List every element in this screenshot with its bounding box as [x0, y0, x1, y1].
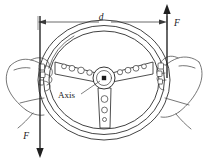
- spoke-hole: [69, 65, 75, 71]
- spoke-hole: [62, 64, 67, 69]
- force-up-label: F: [173, 18, 180, 28]
- diameter-label: d: [99, 12, 104, 22]
- right-grip-mark: [158, 63, 164, 69]
- right-hand-knuckle: [179, 66, 195, 68]
- wheel-hub: [93, 67, 115, 89]
- spoke-hole: [78, 67, 85, 74]
- right-hand-crease: [165, 98, 189, 105]
- left-hand-knuckle: [14, 68, 30, 70]
- right-grip-mark: [157, 71, 162, 77]
- left-hand-forearm: [18, 113, 33, 128]
- spoke-hole: [117, 70, 122, 75]
- spoke-hole: [102, 107, 108, 113]
- spoke-hole: [101, 96, 108, 103]
- right-hand-back: [166, 57, 199, 65]
- figure-container: Axis: [0, 0, 209, 165]
- spoke-hole: [125, 67, 131, 73]
- spoke-hole: [142, 64, 147, 69]
- force-down-arrowhead: [36, 148, 43, 158]
- dim-arrowhead-left: [38, 19, 46, 24]
- dim-arrowhead-right: [159, 19, 167, 24]
- axis-label: Axis: [58, 90, 76, 100]
- left-hand-outline: [6, 66, 26, 110]
- left-hand-back: [10, 59, 43, 66]
- right-grip-mark: [158, 79, 163, 84]
- left-grip-mark: [40, 72, 45, 78]
- left-hand-wrist: [26, 110, 44, 115]
- spoke-hole: [87, 70, 92, 75]
- right-hand-outline: [179, 62, 202, 112]
- force-up-arrowhead: [163, 4, 170, 14]
- spoke-hole: [103, 118, 107, 122]
- force-arrow-down: F: [22, 16, 44, 158]
- steering-wheel-diagram: Axis: [0, 0, 209, 165]
- axis-center-marker: [102, 76, 106, 80]
- force-down-label: F: [22, 131, 29, 141]
- spoke-hole: [133, 65, 139, 71]
- right-hand-forearm: [176, 114, 191, 129]
